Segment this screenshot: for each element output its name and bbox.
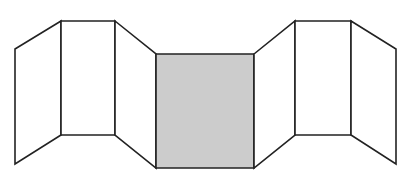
panel xyxy=(295,21,351,135)
panel xyxy=(61,21,115,135)
folding-screen-diagram xyxy=(0,0,417,183)
shaded-panel xyxy=(156,54,254,168)
panel xyxy=(351,21,396,164)
panel xyxy=(15,21,61,164)
panel xyxy=(254,21,295,168)
panel xyxy=(115,21,156,168)
